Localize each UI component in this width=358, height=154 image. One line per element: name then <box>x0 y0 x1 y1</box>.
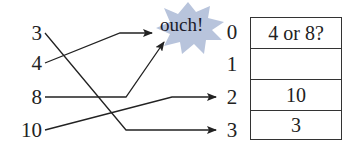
index-label: 1 <box>224 54 240 75</box>
collision-label: ouch! <box>160 14 203 36</box>
table-cell: 3 <box>251 111 341 139</box>
arrow-8-to-0 <box>45 42 164 97</box>
key-label: 4 <box>2 53 42 74</box>
key-label: 8 <box>2 87 42 108</box>
table-cell: 4 or 8? <box>251 18 341 49</box>
table-cell: 10 <box>251 80 341 111</box>
index-label: 2 <box>224 87 240 108</box>
table-cell <box>251 49 341 80</box>
hash-table: 4 or 8? 10 3 <box>250 17 342 140</box>
index-label: 3 <box>224 120 240 141</box>
key-label: 10 <box>2 120 42 141</box>
arrow-10-to-2 <box>45 97 216 130</box>
arrow-4-to-0 <box>45 33 152 63</box>
key-label: 3 <box>2 23 42 44</box>
index-label: 0 <box>224 22 240 43</box>
arrow-3-to-3 <box>45 33 216 130</box>
